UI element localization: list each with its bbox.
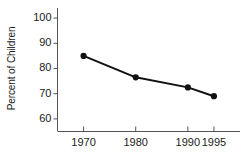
data-point xyxy=(80,53,86,59)
y-axis-tick-label: 70 xyxy=(26,87,52,99)
y-axis-tick-label: 90 xyxy=(26,36,52,48)
x-axis-tick-label: 1995 xyxy=(194,136,234,148)
plot-area xyxy=(0,0,246,156)
data-point xyxy=(185,84,191,90)
data-point xyxy=(211,93,217,99)
line-chart: Percent of Children 60708090100 19701980… xyxy=(0,0,246,156)
y-axis-ticks xyxy=(54,18,58,119)
y-axis-tick-label: 60 xyxy=(26,112,52,124)
y-axis-tick-label: 100 xyxy=(26,11,52,23)
x-axis-tick-label: 1970 xyxy=(64,136,104,148)
y-axis-tick-label: 80 xyxy=(26,61,52,73)
data-markers xyxy=(80,53,217,100)
data-point xyxy=(133,74,139,80)
x-axis-ticks xyxy=(84,127,214,132)
x-axis-tick-label: 1980 xyxy=(116,136,156,148)
data-line xyxy=(84,56,214,96)
